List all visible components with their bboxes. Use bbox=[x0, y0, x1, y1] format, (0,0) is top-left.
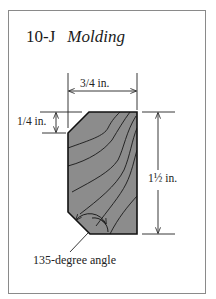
height-label: 1½ in. bbox=[147, 172, 178, 184]
chamfer-label: 1/4 in. bbox=[17, 115, 46, 127]
angle-leader-line bbox=[70, 233, 88, 252]
width-label: 3/4 in. bbox=[80, 77, 109, 89]
angle-label: 135-degree angle bbox=[33, 253, 116, 268]
molding-profile bbox=[68, 112, 137, 234]
